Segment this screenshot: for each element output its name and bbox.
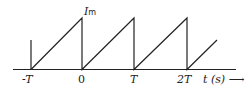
sawtooth-wave xyxy=(31,18,217,70)
tick-label-t: T xyxy=(130,74,137,85)
tick-label-2t: 2T xyxy=(177,74,191,85)
axis-label: t (s) ⟶ xyxy=(203,74,244,85)
peak-label: Im xyxy=(84,6,96,17)
tick-label-minus-t: -T xyxy=(22,74,33,85)
arrow-right-icon: ⟶ xyxy=(229,73,245,86)
tick-label-zero: 0 xyxy=(78,74,85,85)
